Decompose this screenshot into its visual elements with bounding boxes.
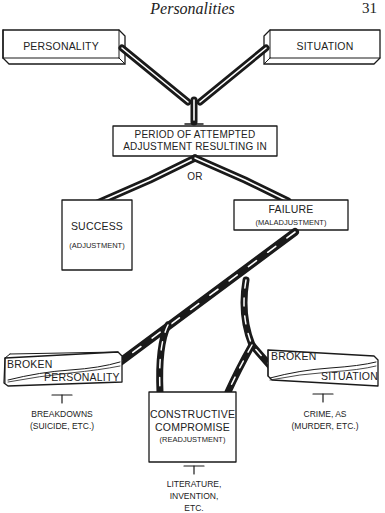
or-label: OR bbox=[180, 171, 210, 182]
situation-label: SITUATION bbox=[270, 40, 380, 52]
broken-situation-line1: BROKEN bbox=[271, 350, 317, 362]
broken-personality-line2: PERSONALITY bbox=[44, 371, 120, 383]
breakdowns-note-line1: BREAKDOWNS bbox=[12, 408, 112, 420]
literature-note-line2: INVENTION, bbox=[144, 490, 244, 502]
breakdowns-note-line2: (SUICIDE, ETC.) bbox=[12, 420, 112, 432]
failure-sub: (MALADJUSTMENT) bbox=[234, 218, 348, 227]
constructive-sub: (READJUSTMENT) bbox=[149, 435, 236, 444]
constructive-line1: CONSTRUCTIVE bbox=[149, 408, 236, 420]
crime-note-line1: CRIME, AS bbox=[275, 408, 375, 420]
period-label-line1: PERIOD OF ATTEMPTED bbox=[113, 129, 277, 140]
personality-label: PERSONALITY bbox=[3, 40, 119, 52]
broken-situation-line2: SITUATION bbox=[321, 370, 378, 382]
crime-note-line2: (MURDER, ETC.) bbox=[275, 420, 375, 432]
literature-note-line3: ETC. bbox=[144, 502, 244, 513]
success-label: SUCCESS bbox=[62, 220, 132, 232]
constructive-line2: COMPROMISE bbox=[149, 421, 236, 433]
broken-personality-line1: BROKEN bbox=[7, 358, 53, 370]
literature-note-line1: LITERATURE, bbox=[144, 478, 244, 490]
success-sub: (ADJUSTMENT) bbox=[62, 241, 132, 250]
period-label-line2: ADJUSTMENT RESULTING IN bbox=[113, 141, 277, 152]
success-box bbox=[62, 200, 132, 270]
failure-label: FAILURE bbox=[234, 203, 348, 215]
